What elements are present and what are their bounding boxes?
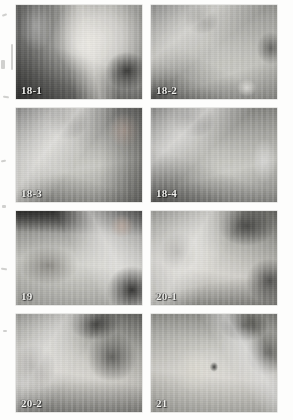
figure-plate-page: 18-1 18-2 18-3 xyxy=(0,0,293,420)
figure-panel: 19 xyxy=(16,211,142,305)
margin-mark xyxy=(2,13,7,16)
panel-label: 21 xyxy=(156,398,167,409)
figure-panel: 18-2 xyxy=(151,5,277,99)
scan-margin-artifacts xyxy=(0,0,16,420)
panel-label: 18-3 xyxy=(21,188,42,199)
figure-panel-grid: 18-1 18-2 18-3 xyxy=(16,5,277,413)
panel-label: 20-1 xyxy=(156,291,177,302)
margin-mark xyxy=(1,160,6,163)
panel-label: 18-4 xyxy=(156,188,177,199)
margin-mark xyxy=(3,95,9,98)
figure-panel: 18-3 xyxy=(16,108,142,202)
figure-panel: 18-4 xyxy=(151,108,277,202)
margin-mark xyxy=(3,330,7,332)
figure-panel: 21 xyxy=(151,314,277,412)
margin-mark xyxy=(2,205,6,208)
figure-panel: 20-2 xyxy=(16,314,142,412)
figure-panel: 20-1 xyxy=(151,211,277,305)
margin-mark xyxy=(11,44,13,70)
panel-label: 19 xyxy=(21,291,32,302)
panel-label: 20-2 xyxy=(21,398,42,409)
panel-photograph xyxy=(151,314,277,412)
margin-mark xyxy=(1,60,5,69)
margin-mark xyxy=(1,268,7,271)
panel-photograph xyxy=(16,211,142,305)
figure-panel: 18-1 xyxy=(16,5,142,99)
panel-label: 18-1 xyxy=(21,85,42,96)
panel-label: 18-2 xyxy=(156,85,177,96)
